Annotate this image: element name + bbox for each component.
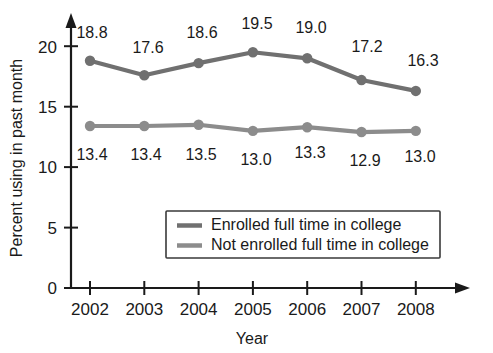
x-tick-label-2008: 2008 bbox=[397, 300, 435, 319]
y-tick-label-10: 10 bbox=[38, 158, 57, 177]
y-tick-label-5: 5 bbox=[48, 219, 57, 238]
x-tick-label-2003: 2003 bbox=[125, 300, 163, 319]
data-label-not-enrolled-2002: 13.4 bbox=[76, 146, 107, 163]
data-point bbox=[411, 126, 421, 136]
x-tick-label-2002: 2002 bbox=[71, 300, 109, 319]
legend: Enrolled full time in college Not enroll… bbox=[166, 211, 440, 258]
data-label-enrolled-2002: 18.8 bbox=[76, 24, 107, 41]
y-tick-label-20: 20 bbox=[38, 38, 57, 57]
data-labels-enrolled: 18.8 17.6 18.6 19.5 19.0 17.2 16.3 bbox=[76, 15, 438, 69]
data-point bbox=[193, 120, 203, 130]
y-axis-tick-labels: 20 15 10 5 0 bbox=[38, 38, 57, 299]
data-point bbox=[139, 70, 149, 80]
x-tick-label-2004: 2004 bbox=[180, 300, 218, 319]
data-label-not-enrolled-2008: 13.0 bbox=[404, 148, 435, 165]
data-label-enrolled-2004: 18.6 bbox=[186, 24, 217, 41]
data-label-not-enrolled-2004: 13.5 bbox=[185, 146, 216, 163]
data-point bbox=[85, 121, 95, 131]
data-point bbox=[302, 53, 312, 63]
data-point bbox=[302, 122, 312, 132]
data-point bbox=[193, 58, 203, 68]
data-labels-not-enrolled: 13.4 13.4 13.5 13.0 13.3 12.9 13.0 bbox=[76, 144, 435, 169]
data-point bbox=[85, 56, 95, 66]
data-label-not-enrolled-2007: 12.9 bbox=[349, 152, 380, 169]
data-point bbox=[248, 47, 258, 57]
data-point bbox=[139, 121, 149, 131]
data-label-enrolled-2007: 17.2 bbox=[351, 38, 382, 55]
x-axis-arrowhead bbox=[455, 283, 470, 294]
series-line-enrolled bbox=[90, 52, 416, 91]
data-label-enrolled-2006: 19.0 bbox=[295, 19, 326, 36]
y-tick-label-15: 15 bbox=[38, 98, 57, 117]
data-label-not-enrolled-2005: 13.0 bbox=[240, 151, 271, 168]
series-markers-not-enrolled bbox=[85, 120, 421, 138]
y-axis-arrowhead bbox=[66, 13, 77, 28]
data-label-enrolled-2003: 17.6 bbox=[132, 39, 163, 56]
y-tick-label-0: 0 bbox=[48, 279, 57, 298]
x-tick-label-2005: 2005 bbox=[234, 300, 272, 319]
data-label-enrolled-2005: 19.5 bbox=[241, 15, 272, 32]
data-point bbox=[356, 127, 366, 137]
data-point bbox=[248, 126, 258, 136]
legend-label-enrolled: Enrolled full time in college bbox=[211, 216, 401, 233]
chart-canvas: 20 15 10 5 0 2002 2003 2004 2005 2006 20… bbox=[0, 0, 493, 353]
x-tick-label-2006: 2006 bbox=[288, 300, 326, 319]
line-chart: 20 15 10 5 0 2002 2003 2004 2005 2006 20… bbox=[0, 0, 493, 353]
data-point bbox=[356, 75, 366, 85]
x-tick-label-2007: 2007 bbox=[343, 300, 381, 319]
x-axis-title: Year bbox=[236, 330, 269, 347]
data-label-enrolled-2008: 16.3 bbox=[407, 52, 438, 69]
x-axis-tick-labels: 2002 2003 2004 2005 2006 2007 2008 bbox=[71, 300, 435, 319]
data-label-not-enrolled-2006: 13.3 bbox=[294, 144, 325, 161]
data-point bbox=[411, 86, 421, 96]
legend-label-not-enrolled: Not enrolled full time in college bbox=[211, 236, 429, 253]
y-axis-title: Percent using in past month bbox=[8, 59, 25, 257]
data-label-not-enrolled-2003: 13.4 bbox=[130, 146, 161, 163]
series-group bbox=[85, 47, 421, 137]
